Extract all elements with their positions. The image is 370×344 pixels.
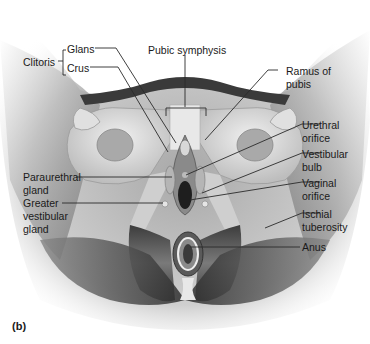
female-perineum-diagram: Clitoris Glans Crus Pubic symphysis Ramu… bbox=[0, 0, 370, 344]
panel-letter: (b) bbox=[12, 320, 26, 332]
label-greater-vestibular-gland-line3: gland bbox=[23, 223, 49, 235]
label-vaginal-orifice-line1: Vaginal bbox=[302, 177, 336, 189]
label-glans: Glans bbox=[67, 43, 94, 55]
label-urethral-orifice-line1: Urethral bbox=[302, 119, 339, 131]
label-ischial-tuberosity-line1: Ischial bbox=[302, 208, 332, 220]
label-ramus-of-pubis-line1: Ramus of bbox=[286, 65, 331, 77]
label-ischial-tuberosity-line2: tuberosity bbox=[302, 221, 348, 233]
label-ramus-of-pubis-line2: pubis bbox=[286, 78, 311, 90]
label-paraurethral-gland-line2: gland bbox=[23, 184, 49, 196]
label-anus: Anus bbox=[302, 241, 326, 253]
label-greater-vestibular-gland-line2: vestibular bbox=[23, 210, 68, 222]
label-vaginal-orifice-line2: orifice bbox=[302, 190, 330, 202]
label-clitoris: Clitoris bbox=[23, 56, 55, 68]
label-paraurethral-gland-line1: Paraurethral bbox=[23, 171, 81, 183]
label-vestibular-bulb-line2: bulb bbox=[302, 161, 322, 173]
label-pubic-symphysis: Pubic symphysis bbox=[148, 44, 226, 56]
label-vestibular-bulb-line1: Vestibular bbox=[302, 148, 348, 160]
label-greater-vestibular-gland-line1: Greater bbox=[23, 197, 59, 209]
label-crus: Crus bbox=[67, 62, 89, 74]
label-urethral-orifice-line2: orifice bbox=[302, 132, 330, 144]
